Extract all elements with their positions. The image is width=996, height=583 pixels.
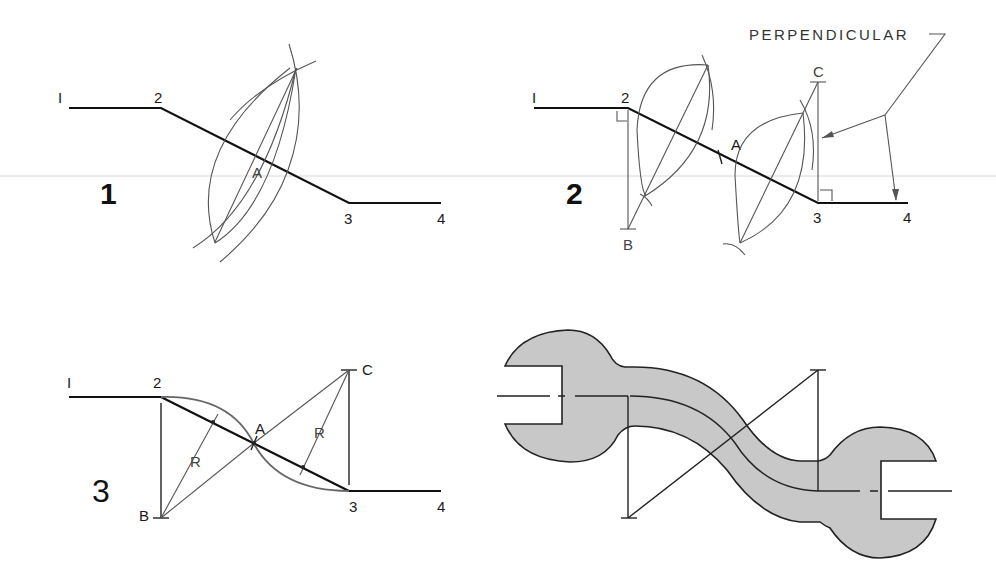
panel-3: I 2 A R R B C 3 4 3 xyxy=(67,361,445,524)
label-point-a: A xyxy=(255,420,265,437)
arrowhead-1 xyxy=(822,131,834,138)
leader-line xyxy=(885,34,945,115)
arc-tick-top-2 xyxy=(800,100,814,170)
perpendicular-annotation: PERPENDICULAR xyxy=(749,26,909,43)
label-point-3: 3 xyxy=(344,210,352,227)
label-point-2: 2 xyxy=(154,89,162,106)
ogee-curve-diagram: I 2 A 3 4 1 A I 2 B C xyxy=(0,0,996,583)
label-point-c: C xyxy=(362,361,373,378)
arrowhead-2 xyxy=(892,189,899,201)
label-radius-left: R xyxy=(190,453,201,470)
step-number: 3 xyxy=(92,473,110,509)
label-point-2: 2 xyxy=(621,89,629,106)
line-b-a xyxy=(161,443,254,518)
radius-marker xyxy=(301,465,305,469)
right-angle-mark xyxy=(617,111,627,121)
radius-marker xyxy=(211,420,215,424)
right-angle-mark-2 xyxy=(820,190,832,201)
label-point-1: I xyxy=(67,374,71,391)
wrench-example xyxy=(497,330,952,558)
leader-arrow-2 xyxy=(885,115,896,200)
radius-c xyxy=(300,370,349,475)
arc-tick-bot-2 xyxy=(723,244,745,255)
panel-2: A I 2 B C 3 4 2 PERPENDICULAR xyxy=(532,26,945,255)
bisector-line xyxy=(215,68,297,242)
midpoint-tick xyxy=(718,150,722,164)
label-point-4: 4 xyxy=(437,498,445,515)
step-number: 1 xyxy=(100,177,117,210)
line-1-2-3-4 xyxy=(534,108,908,203)
step-number: 2 xyxy=(566,177,583,210)
label-point-1: I xyxy=(58,89,62,106)
arc-top xyxy=(230,61,316,120)
label-point-3: 3 xyxy=(349,498,357,515)
label-point-b: B xyxy=(139,507,149,524)
line-c-a xyxy=(254,370,349,443)
arc-left xyxy=(208,68,290,243)
label-point-3: 3 xyxy=(813,209,821,226)
panel-1: I 2 A 3 4 1 xyxy=(58,44,445,262)
bisector-line-left xyxy=(628,65,708,229)
line-c-bisector xyxy=(803,82,818,113)
label-point-a: A xyxy=(252,164,262,181)
wrench-body xyxy=(505,330,936,558)
label-point-4: 4 xyxy=(437,210,445,227)
label-point-2: 2 xyxy=(153,374,161,391)
label-point-c: C xyxy=(813,63,824,80)
arc-lower xyxy=(193,68,296,248)
label-point-4: 4 xyxy=(903,209,911,226)
label-point-1: I xyxy=(532,89,536,106)
label-point-b: B xyxy=(623,236,633,253)
label-radius-right: R xyxy=(314,424,325,441)
line-1-2-3-4 xyxy=(69,108,441,203)
